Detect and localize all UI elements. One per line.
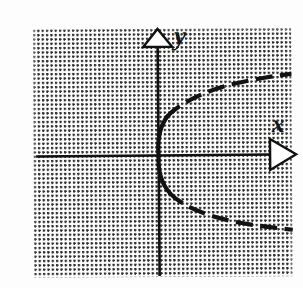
x-axis-label: x <box>271 110 285 137</box>
parabola-figure: y x <box>0 0 303 288</box>
parabola-lower-vertex-segment <box>158 155 170 194</box>
x-axis-line <box>36 154 272 156</box>
y-axis-arrowhead-icon <box>143 29 172 47</box>
x-axis-arrowhead-icon <box>270 139 296 170</box>
y-axis-label: y <box>171 21 187 51</box>
figure-vector-overlay: y x <box>0 0 303 288</box>
parabola-lower-branch <box>169 192 292 231</box>
